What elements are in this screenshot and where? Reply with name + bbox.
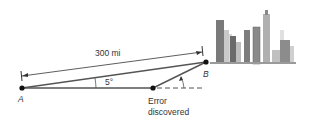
- arrowhead-right-icon: [196, 51, 202, 55]
- distance-label: 300 mi: [95, 49, 121, 58]
- point-b-label: B: [203, 70, 209, 79]
- error-label-line2: discovered: [148, 108, 189, 117]
- error-label-line1: Error: [148, 97, 167, 106]
- city-skyline-icon: [210, 10, 296, 64]
- point-b: [203, 59, 208, 64]
- angle-label: 5°: [105, 78, 113, 87]
- angle-arc-5deg: [95, 78, 96, 88]
- point-a: [19, 85, 24, 90]
- arrowhead-left-icon: [22, 73, 28, 77]
- point-error: [150, 85, 155, 90]
- point-a-label: A: [18, 95, 24, 104]
